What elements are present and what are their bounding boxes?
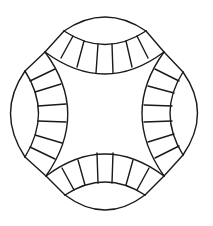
top-band-outer-edge [64,31,146,45]
left-band-outer-edge [25,71,39,157]
left-outer-melon-edge [11,71,26,157]
right-outer-melon-edge [183,72,198,155]
right-arc [142,52,198,176]
bottom-arc [46,153,164,210]
top-arc [45,17,164,74]
quilt-block-diagram [0,0,213,226]
bottom-outer-melon-edge [65,195,145,210]
right-band-outer-edge [170,72,183,155]
bottom-band-outer-edge [65,182,145,195]
right-band-inner-edge [142,52,164,176]
left-arc [11,52,68,176]
left-band-inner-edge [45,52,68,176]
top-outer-melon-edge [64,17,146,31]
